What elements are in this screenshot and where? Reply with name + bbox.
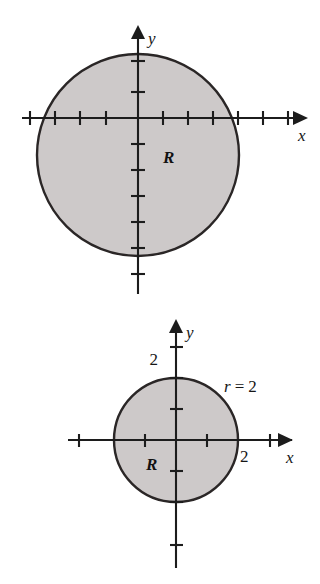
upper-y-axis-label: y [146,29,156,48]
math-figure-svg: y x R [0,0,320,584]
upper-figure: y x R [22,25,308,294]
radius-variable: r [224,377,231,396]
lower-y-axis-label: y [184,323,194,342]
upper-region-label: R [162,148,174,167]
lower-x-tick-label-2: 2 [240,447,249,466]
lower-y-axis-arrow-icon [169,319,183,333]
upper-y-axis-arrow-icon [131,25,145,39]
radius-equals-sign: = [235,377,245,396]
lower-figure: y x 2 2 r=2 R [68,319,294,568]
math-figure-container: y x R [0,0,320,584]
lower-x-axis-label: x [285,448,294,467]
lower-region-label: R [145,455,157,474]
lower-radius-annotation: r=2 [224,377,257,396]
upper-x-axis-arrow-icon [293,111,308,125]
upper-x-axis-label: x [297,126,306,145]
lower-x-axis-arrow-icon [278,433,293,447]
radius-value: 2 [248,377,257,396]
lower-y-tick-label-2: 2 [150,350,159,369]
